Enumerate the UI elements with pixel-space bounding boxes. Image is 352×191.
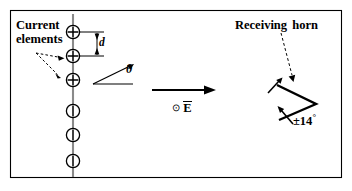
label-theta-angle: θ [126,63,132,76]
label-electric-field: ⊙E [172,101,192,115]
degree-symbol: ° [312,112,316,122]
array-element-1 [66,25,79,38]
array-element-5 [66,128,79,141]
label-current-elements: Current elements [16,18,63,46]
out-of-page-icon: ⊙ [172,102,180,113]
array-element-2 [66,49,79,62]
array-element-6 [66,154,79,167]
label-beam-angle-value: ±14 [293,114,312,128]
label-current-elements-line1: Current [16,18,63,32]
label-efield-vector: E [183,101,192,115]
label-beam-angle: ±14° [293,112,316,128]
label-spacing-d: d [99,36,105,49]
array-element-4 [66,104,79,117]
label-receiving-horn: Receiving horn [235,18,318,32]
antenna-array-diagram: Current elements d θ ⊙E Receiving horn ±… [0,0,352,191]
array-element-3 [66,73,79,86]
label-current-elements-line2: elements [16,32,63,46]
